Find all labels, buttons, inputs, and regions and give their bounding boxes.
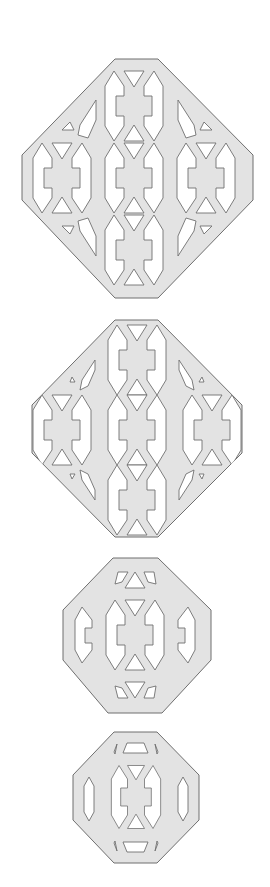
lattice-figure xyxy=(0,0,270,887)
tile-4 xyxy=(73,732,199,863)
tile-2 xyxy=(32,320,242,537)
tile-1 xyxy=(22,59,253,298)
tile-3 xyxy=(63,558,211,713)
